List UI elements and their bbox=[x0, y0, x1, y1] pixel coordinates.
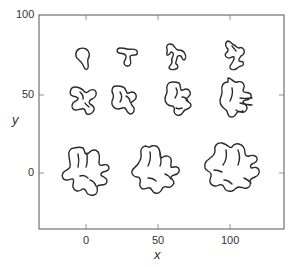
snapshot-r3-2 bbox=[132, 146, 179, 194]
snapshot-r3-1 bbox=[62, 147, 109, 195]
y-tick-label-100: 100 bbox=[16, 8, 34, 20]
x-tick-label-100: 100 bbox=[221, 234, 239, 246]
x-tick-label-0: 0 bbox=[83, 234, 89, 246]
figure: 100 50 0 0 50 100 x y bbox=[0, 0, 294, 267]
y-axis-title: y bbox=[12, 112, 19, 127]
x-axis-title: x bbox=[154, 247, 161, 262]
snapshot-r2-3 bbox=[165, 82, 191, 115]
pattern-contours bbox=[62, 41, 259, 195]
snapshot-r1-3 bbox=[167, 44, 186, 70]
plot-canvas bbox=[0, 0, 294, 267]
y-tick-label-50: 50 bbox=[22, 88, 34, 100]
snapshot-r2-2 bbox=[112, 86, 136, 114]
snapshot-r3-3 bbox=[205, 143, 260, 191]
snapshot-r2-4 bbox=[220, 78, 252, 117]
snapshot-r1-4 bbox=[225, 41, 244, 70]
snapshot-r2-1 bbox=[70, 87, 96, 114]
y-tick-label-0: 0 bbox=[28, 166, 34, 178]
x-tick-label-50: 50 bbox=[152, 234, 164, 246]
snapshot-r1-1 bbox=[76, 48, 89, 69]
x-ticks bbox=[86, 15, 230, 229]
plot-frame bbox=[39, 15, 284, 229]
snapshot-r1-2 bbox=[117, 48, 137, 66]
